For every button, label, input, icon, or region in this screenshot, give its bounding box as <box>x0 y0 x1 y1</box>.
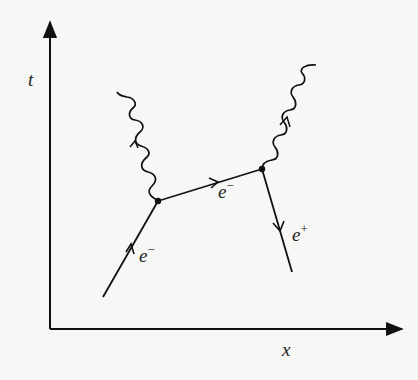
time-axis-label: t <box>28 69 34 90</box>
photon-2-line <box>262 65 316 169</box>
vertex-a <box>155 198 161 204</box>
vertex-b <box>259 166 265 172</box>
diagram-svg: t x e− e− e+ <box>0 0 418 380</box>
feynman-diagram: t x e− e− e+ <box>0 0 418 380</box>
internal-electron-line <box>158 169 262 201</box>
photon-1-line <box>117 92 158 201</box>
positron-line <box>262 169 292 272</box>
space-axis-label: x <box>281 339 291 360</box>
internal-electron-label: e− <box>218 178 234 202</box>
positron-label: e+ <box>292 221 308 245</box>
incoming-electron-label: e− <box>139 242 155 266</box>
